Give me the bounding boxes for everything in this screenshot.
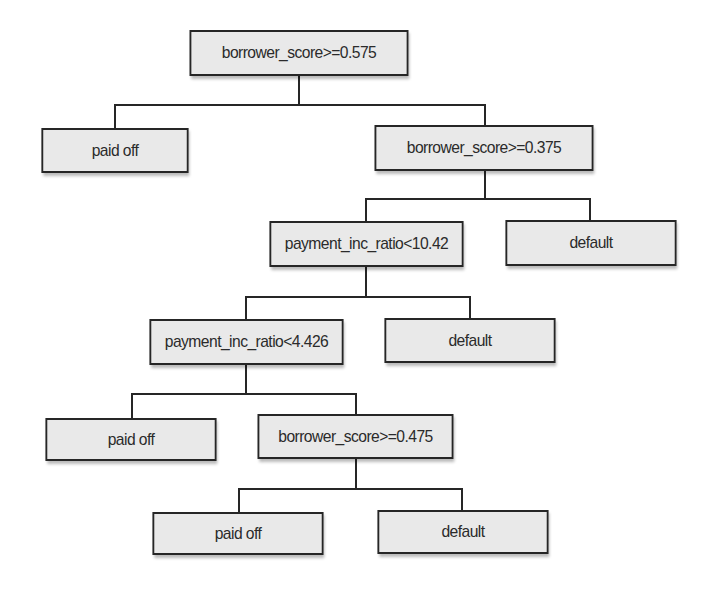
node-label: paid off xyxy=(108,430,155,450)
connector-line xyxy=(469,296,471,318)
node-label: borrower_score>=0.375 xyxy=(407,138,561,158)
connector-line xyxy=(461,488,463,510)
node-label: borrower_score>=0.475 xyxy=(278,427,432,447)
connector-line xyxy=(245,296,247,319)
connector-line xyxy=(131,393,357,395)
node-label: default xyxy=(441,522,484,542)
connector-line xyxy=(589,198,591,220)
leaf-node-default: default xyxy=(505,220,676,266)
connector-line xyxy=(365,198,367,221)
leaf-node-default: default xyxy=(384,318,555,363)
connector-line xyxy=(365,267,367,297)
leaf-node-paid-off: paid off xyxy=(152,512,323,555)
split-node: borrower_score>=0.475 xyxy=(258,414,454,459)
connector-line xyxy=(114,104,116,128)
root-split-node: borrower_score>=0.575 xyxy=(190,30,409,76)
split-node: borrower_score>=0.375 xyxy=(375,125,594,171)
connector-line xyxy=(365,198,591,200)
node-label: payment_inc_ratio<4.426 xyxy=(165,332,328,352)
node-label: paid off xyxy=(92,141,139,161)
node-label: borrower_score>=0.575 xyxy=(222,43,376,63)
connector-line xyxy=(245,365,247,394)
leaf-node-paid-off: paid off xyxy=(45,418,216,461)
connector-line xyxy=(238,488,240,512)
connector-line xyxy=(238,488,463,490)
connector-line xyxy=(355,459,357,489)
leaf-node-paid-off: paid off xyxy=(41,128,188,173)
connector-line xyxy=(114,104,486,106)
connector-line xyxy=(131,393,133,418)
connector-line xyxy=(298,76,300,105)
connector-line xyxy=(484,171,486,199)
node-label: default xyxy=(569,233,612,253)
split-node: payment_inc_ratio<10.42 xyxy=(269,221,463,267)
decision-tree-diagram: borrower_score>=0.575 paid off borrower_… xyxy=(0,0,717,592)
split-node: payment_inc_ratio<4.426 xyxy=(149,319,343,365)
connector-line xyxy=(355,393,357,414)
node-label: default xyxy=(448,331,491,351)
connector-line xyxy=(245,296,471,298)
node-label: payment_inc_ratio<10.42 xyxy=(285,234,448,254)
leaf-node-default: default xyxy=(377,510,548,554)
node-label: paid off xyxy=(215,524,262,544)
connector-line xyxy=(484,104,486,125)
